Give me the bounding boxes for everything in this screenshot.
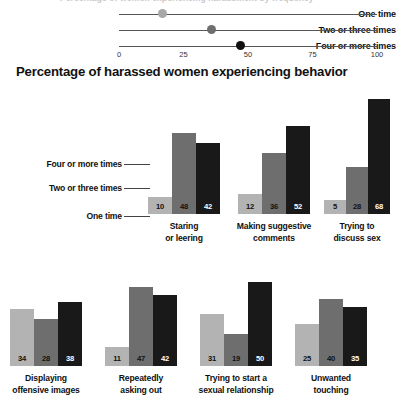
- dot-plot-row: One time: [0, 6, 396, 22]
- bar: 28: [34, 319, 58, 366]
- chart-panel: 254035Unwantedtouching: [295, 248, 367, 400]
- dot-plot-track: [119, 30, 377, 31]
- chart-panel: 104842Staringor leering: [148, 96, 220, 248]
- bar: 34: [10, 309, 34, 366]
- bar-value-label: 12: [246, 203, 254, 214]
- bar: 11: [105, 347, 129, 366]
- bar-group: 52868: [324, 96, 390, 214]
- bar-value-label: 34: [18, 355, 26, 366]
- bar-value-label: 42: [204, 203, 212, 214]
- dot-plot-marker: [236, 41, 245, 50]
- panel-category-label-line: Making suggestive: [224, 221, 324, 233]
- panel-category-label: Repeatedlyasking out: [91, 373, 191, 396]
- bar: 10: [148, 197, 172, 214]
- dot-plot-tick-label: 75: [308, 50, 316, 59]
- bar-value-label: 40: [327, 355, 335, 366]
- bar-value-label: 35: [351, 355, 359, 366]
- panel-category-label: Trying to start asexual relationship: [186, 373, 286, 396]
- bar-value-label: 31: [208, 355, 216, 366]
- panel-category-label: Making suggestivecomments: [224, 221, 324, 244]
- panel-category-label: Staringor leering: [134, 221, 234, 244]
- bar: 38: [58, 302, 82, 366]
- chart-panel: 52868Trying todiscuss sex: [324, 96, 390, 248]
- bar-value-label: 19: [232, 355, 240, 366]
- bar-value-label: 5: [333, 203, 337, 214]
- bar: 47: [129, 287, 153, 366]
- bar-group: 342838: [10, 248, 82, 366]
- dot-plot-tick-label: 25: [179, 50, 187, 59]
- bar: 5: [324, 200, 346, 214]
- bar-value-label: 28: [42, 355, 50, 366]
- panel-category-label-line: offensive images: [0, 385, 96, 397]
- bar: 28: [346, 167, 368, 214]
- bar: 50: [248, 282, 272, 366]
- bar-value-label: 38: [66, 355, 74, 366]
- bar-value-label: 36: [270, 203, 278, 214]
- bar: 25: [295, 324, 319, 366]
- bar: 42: [196, 143, 220, 214]
- bar-value-label: 25: [303, 355, 311, 366]
- bar-group: 123652: [238, 96, 310, 214]
- bar: 31: [200, 314, 224, 366]
- bar: 35: [343, 307, 367, 366]
- bar-value-label: 48: [180, 203, 188, 214]
- bar-value-label: 68: [375, 203, 383, 214]
- bar-value-label: 10: [156, 203, 164, 214]
- panel-category-label: Trying todiscuss sex: [310, 221, 401, 244]
- panel-category-label-line: sexual relationship: [186, 385, 286, 397]
- dot-plot-tick-label: 50: [244, 50, 252, 59]
- frequency-dot-plot: Percentage of women experiencing harassm…: [0, 0, 396, 62]
- panel-category-label-line: Trying to: [310, 221, 401, 233]
- dot-plot-tick-label: 0: [117, 50, 121, 59]
- panel-category-label-line: comments: [224, 233, 324, 245]
- panel-category-label-line: Displaying: [0, 373, 96, 385]
- chart-panel: 123652Making suggestivecomments: [238, 96, 310, 248]
- bar-value-label: 42: [161, 355, 169, 366]
- panel-category-label-line: Repeatedly: [91, 373, 191, 385]
- dot-plot-marker: [207, 25, 216, 34]
- bar-value-label: 11: [113, 355, 121, 366]
- bar: 19: [224, 334, 248, 366]
- bar-group: 311950: [200, 248, 272, 366]
- panel-category-label: Unwantedtouching: [281, 373, 381, 396]
- panel-category-label-line: or leering: [134, 233, 234, 245]
- bar: 40: [319, 299, 343, 366]
- bar: 52: [286, 126, 310, 214]
- dot-plot-row: Two or three times: [0, 22, 396, 38]
- small-multiples-grid: 104842Staringor leering123652Making sugg…: [0, 96, 396, 401]
- chart-panel: 114742Repeatedlyasking out: [105, 248, 177, 400]
- bar-group: 254035: [295, 248, 367, 366]
- bar-group: 114742: [105, 248, 177, 366]
- page-title: Percentage of harassed women experiencin…: [16, 64, 386, 79]
- panel-category-label-line: Unwanted: [281, 373, 381, 385]
- dot-plot-axis: 0255075100: [0, 50, 396, 62]
- dot-plot-tick-label: 100: [371, 50, 384, 59]
- bar-value-label: 47: [137, 355, 145, 366]
- bar: 42: [153, 295, 177, 366]
- dot-plot-marker: [158, 9, 167, 18]
- panel-category-label: Displayingoffensive images: [0, 373, 96, 396]
- bar: 68: [368, 99, 390, 214]
- bar: 12: [238, 194, 262, 214]
- bar-group: 104842: [148, 96, 220, 214]
- chart-panel: 311950Trying to start asexual relationsh…: [200, 248, 272, 400]
- panel-category-label-line: Staring: [134, 221, 234, 233]
- panel-category-label-line: Trying to start a: [186, 373, 286, 385]
- panel-category-label-line: touching: [281, 385, 381, 397]
- chart-panel: 342838Displayingoffensive images: [10, 248, 82, 400]
- panel-category-label-line: discuss sex: [310, 233, 401, 245]
- cropped-title: Percentage of women experiencing harassm…: [60, 0, 390, 3]
- dot-plot-track: [119, 46, 377, 47]
- bar-value-label: 52: [294, 203, 302, 214]
- panel-category-label-line: asking out: [91, 385, 191, 397]
- bar-value-label: 50: [256, 355, 264, 366]
- bar: 36: [262, 153, 286, 214]
- bar: 48: [172, 133, 196, 214]
- bar-value-label: 28: [353, 203, 361, 214]
